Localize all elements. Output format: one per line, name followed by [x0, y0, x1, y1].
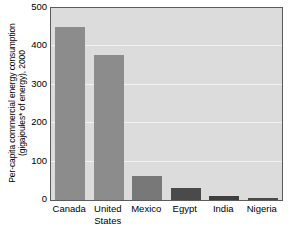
x-tick-label: Nigeria — [243, 203, 282, 215]
bar — [209, 196, 239, 200]
bar — [132, 176, 162, 200]
x-tick-label: India — [204, 203, 243, 215]
x-tick-label-line: India — [213, 203, 234, 214]
bars-group — [51, 8, 282, 200]
bar — [248, 198, 278, 200]
x-axis-ticks: CanadaUnitedStatesMexicoEgyptIndiaNigeri… — [50, 203, 283, 239]
x-tick-label-line: United — [94, 203, 121, 214]
x-tick-label-line: Egypt — [173, 203, 197, 214]
y-axis-ticks: 0100200300400500 — [22, 0, 47, 239]
bar — [171, 188, 201, 200]
x-tick-label-line: States — [89, 215, 128, 227]
y-tick-label: 500 — [23, 2, 47, 12]
x-tick-label: Canada — [50, 203, 89, 215]
x-tick-label-line: Nigeria — [247, 203, 277, 214]
bar — [94, 55, 124, 200]
y-tick-label: 100 — [23, 156, 47, 166]
bar-chart: Per-capita commercial energy consumption… — [0, 0, 293, 239]
x-tick-label-line: Canada — [53, 203, 86, 214]
x-tick-label: Mexico — [127, 203, 166, 215]
y-axis-title-line-1: Per-capita commercial energy consumption — [7, 23, 18, 182]
y-tick-label: 400 — [23, 40, 47, 50]
x-tick-label: UnitedStates — [89, 203, 128, 226]
x-tick-label-line: Mexico — [131, 203, 161, 214]
y-tick-label: 200 — [23, 117, 47, 127]
x-tick-label: Egypt — [166, 203, 205, 215]
y-tick-label: 300 — [23, 79, 47, 89]
bar — [55, 27, 85, 200]
plot-area — [50, 7, 283, 201]
y-tick-label: 0 — [23, 194, 47, 204]
